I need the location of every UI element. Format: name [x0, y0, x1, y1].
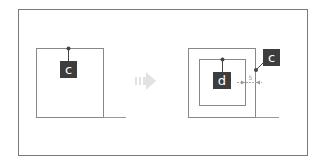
outer-anchor-dot	[254, 68, 258, 72]
diagram-canvas: c d c 5	[0, 0, 322, 166]
inner-label: d	[218, 73, 226, 88]
outer-label: c	[268, 50, 275, 65]
inner-anchor-dot	[221, 58, 225, 62]
before-anchor-dot	[67, 47, 71, 51]
before-label: c	[65, 62, 72, 77]
diagram-frame	[19, 10, 308, 156]
gap-label: 5	[249, 74, 253, 81]
